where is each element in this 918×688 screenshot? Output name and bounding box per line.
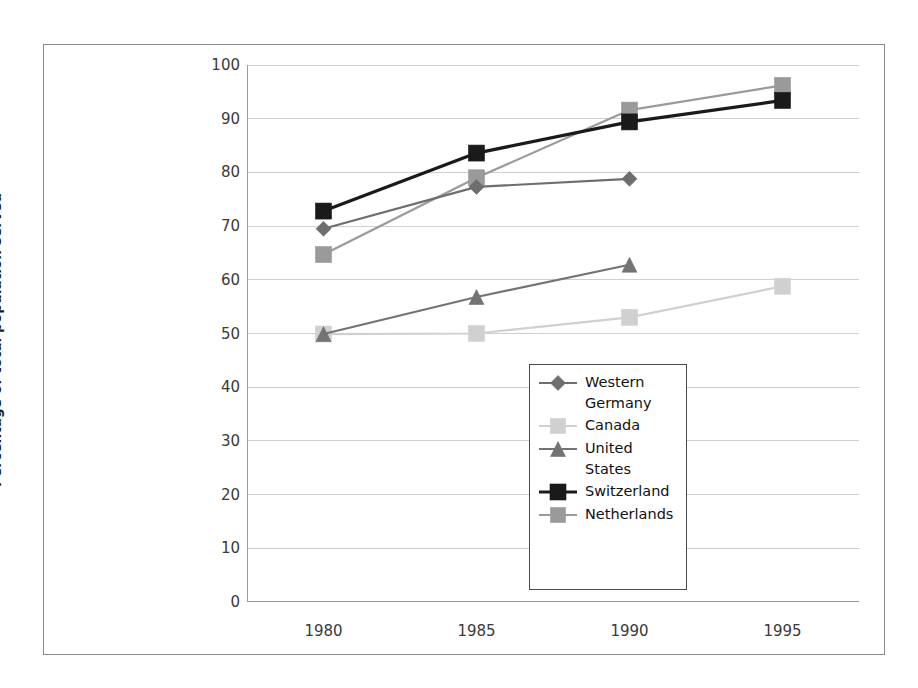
legend-marker bbox=[550, 484, 566, 500]
series-marker bbox=[316, 247, 332, 263]
y-tick-label: 20 bbox=[194, 486, 240, 504]
square-icon bbox=[536, 504, 580, 526]
series-canada bbox=[316, 278, 791, 342]
legend-item-switzerland[interactable]: Switzerland bbox=[530, 481, 686, 503]
y-axis-title: Percentage of total population served bbox=[0, 150, 4, 530]
diamond-icon bbox=[536, 372, 580, 394]
series-marker bbox=[622, 114, 638, 130]
triangle-icon bbox=[536, 438, 580, 460]
series-marker bbox=[469, 326, 485, 342]
series-marker bbox=[622, 309, 638, 325]
series-line bbox=[324, 100, 783, 211]
series-line bbox=[324, 286, 783, 334]
series-marker bbox=[775, 77, 791, 93]
chart-legend[interactable]: Western GermanyCanadaUnited StatesSwitze… bbox=[529, 364, 687, 590]
series-marker bbox=[622, 171, 637, 186]
y-tick-label: 0 bbox=[194, 593, 240, 611]
y-axis-tick-labels: 1009080706050403020100 bbox=[188, 65, 240, 602]
y-tick-label: 80 bbox=[194, 163, 240, 181]
x-tick-label: 1985 bbox=[457, 622, 495, 640]
legend-label: Switzerland bbox=[580, 481, 670, 502]
legend-label: Netherlands bbox=[580, 504, 673, 525]
y-tick-label: 50 bbox=[194, 325, 240, 343]
series-marker bbox=[775, 278, 791, 294]
square-icon bbox=[536, 415, 580, 437]
y-tick-label: 100 bbox=[194, 56, 240, 74]
series-marker bbox=[316, 203, 332, 219]
chart-page: Percentage of total population served 10… bbox=[0, 0, 918, 688]
y-tick-label: 90 bbox=[194, 110, 240, 128]
legend-label: United States bbox=[580, 438, 682, 480]
y-tick-label: 70 bbox=[194, 217, 240, 235]
y-tick-label: 60 bbox=[194, 271, 240, 289]
square-icon bbox=[536, 481, 580, 503]
series-netherlands bbox=[316, 77, 791, 262]
legend-label: Canada bbox=[580, 415, 640, 436]
legend-item-netherlands[interactable]: Netherlands bbox=[530, 504, 686, 526]
y-tick-label: 30 bbox=[194, 432, 240, 450]
legend-marker bbox=[551, 419, 566, 434]
x-tick-label: 1995 bbox=[763, 622, 801, 640]
legend-item-western-germany[interactable]: Western Germany bbox=[530, 372, 686, 414]
legend-marker bbox=[551, 508, 566, 523]
legend-marker bbox=[551, 376, 566, 391]
y-tick-label: 10 bbox=[194, 539, 240, 557]
x-tick-label: 1990 bbox=[610, 622, 648, 640]
legend-item-canada[interactable]: Canada bbox=[530, 415, 686, 437]
series-marker bbox=[316, 221, 331, 236]
y-tick-label: 40 bbox=[194, 378, 240, 396]
series-switzerland bbox=[316, 92, 791, 219]
legend-label: Western Germany bbox=[580, 372, 671, 414]
legend-item-united-states[interactable]: United States bbox=[530, 438, 686, 480]
x-tick-label: 1980 bbox=[304, 622, 342, 640]
x-axis-tick-labels: 1980198519901995 bbox=[247, 612, 859, 642]
series-marker bbox=[775, 92, 791, 108]
series-marker bbox=[469, 145, 485, 161]
